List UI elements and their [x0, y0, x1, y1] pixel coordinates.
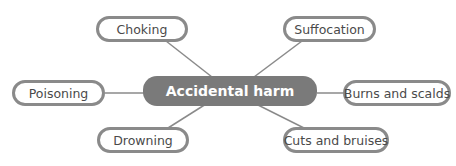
- node-label: Suffocation: [294, 22, 365, 37]
- link-cuts: [256, 104, 304, 128]
- node-suffocation: Suffocation: [283, 16, 376, 42]
- node-label: Drowning: [113, 133, 173, 148]
- node-label: Cuts and bruises: [284, 133, 389, 148]
- center-node: Accidental harm: [143, 76, 317, 106]
- link-choking: [166, 41, 212, 77]
- node-label: Poisoning: [29, 86, 89, 101]
- center-label: Accidental harm: [166, 83, 294, 99]
- node-cuts-and-bruises: Cuts and bruises: [283, 127, 389, 153]
- node-poisoning: Poisoning: [12, 80, 105, 106]
- link-drowning: [168, 104, 206, 128]
- node-burns-and-scalds: Burns and scalds: [343, 80, 451, 106]
- node-label: Choking: [117, 22, 168, 37]
- node-label: Burns and scalds: [344, 86, 450, 101]
- node-choking: Choking: [96, 16, 188, 42]
- node-drowning: Drowning: [97, 127, 189, 153]
- link-suffocation: [254, 41, 302, 77]
